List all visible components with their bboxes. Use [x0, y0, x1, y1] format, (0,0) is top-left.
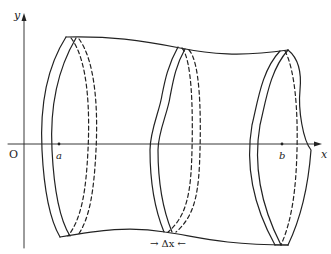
left-disk-back-dashed-1 — [68, 38, 89, 236]
solid-of-revolution-diagram — [0, 0, 331, 254]
x-axis-label: x — [321, 149, 327, 160]
y-axis-arrow — [22, 13, 27, 21]
top-boundary-curve — [66, 37, 288, 54]
left-disk-front-inner — [52, 38, 76, 236]
middle-disk-back-dashed-2 — [176, 50, 200, 232]
right-disk-back-outline — [288, 50, 311, 245]
x-axis-arrow — [314, 142, 322, 147]
middle-disk-back-dashed-1 — [168, 48, 192, 232]
point-a-dot — [58, 143, 61, 146]
y-axis-label: y — [14, 10, 20, 21]
point-b-dot — [281, 143, 284, 146]
right-disk-back-dashed — [281, 51, 297, 245]
origin-label: O — [9, 149, 18, 160]
right-disk-front-inner — [258, 50, 288, 245]
point-a-label: a — [56, 151, 62, 161]
right-disk-front-outer — [250, 51, 280, 245]
delta-x-annotation: → Δx ← — [150, 239, 186, 249]
middle-disk-front-inner — [158, 49, 185, 232]
left-disk-back-dashed-2 — [78, 39, 97, 235]
point-b-label: b — [279, 151, 285, 161]
